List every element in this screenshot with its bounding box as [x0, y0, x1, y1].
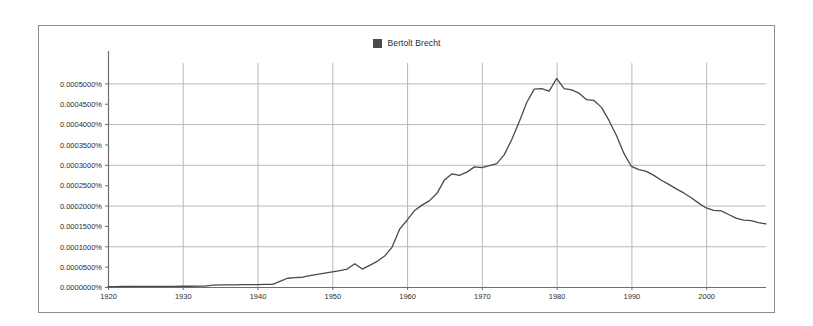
y-tick-label: 0.0003500%: [60, 141, 102, 150]
y-tick-label: 0.0002000%: [60, 202, 102, 211]
gridlines: [108, 63, 766, 287]
series-line: [108, 78, 766, 286]
x-tick-label: 1980: [549, 292, 566, 301]
y-tick-label: 0.0000000%: [60, 283, 102, 292]
y-tick-label: 0.0002500%: [60, 181, 102, 190]
y-tick-label: 0.0001000%: [60, 243, 102, 252]
y-tick-label: 0.0005000%: [60, 80, 102, 89]
x-axis-ticks: 192019301940195019601970198019902000: [100, 287, 715, 301]
chart-container: Bertolt Brecht 0.0005000%0.0004500%0.000…: [38, 25, 775, 313]
x-tick-label: 1960: [399, 292, 416, 301]
y-tick-label: 0.0004000%: [60, 120, 102, 129]
y-tick-label: 0.0000500%: [60, 263, 102, 272]
x-tick-label: 1940: [250, 292, 267, 301]
x-tick-label: 1930: [175, 292, 192, 301]
x-tick-label: 1990: [624, 292, 641, 301]
axis-lines: [108, 51, 766, 288]
y-tick-label: 0.0003000%: [60, 161, 102, 170]
ngram-line-chart: 0.0005000%0.0004500%0.0004000%0.0003500%…: [39, 26, 776, 314]
x-tick-label: 2000: [698, 292, 715, 301]
y-tick-label: 0.0001500%: [60, 222, 102, 231]
plot-area: 0.0005000%0.0004500%0.0004000%0.0003500%…: [39, 26, 776, 314]
data-series: [108, 78, 766, 286]
y-axis-ticks: 0.0005000%0.0004500%0.0004000%0.0003500%…: [60, 80, 108, 293]
x-tick-label: 1920: [100, 292, 117, 301]
y-tick-label: 0.0004500%: [60, 100, 102, 109]
x-tick-label: 1950: [324, 292, 341, 301]
x-tick-label: 1970: [474, 292, 491, 301]
